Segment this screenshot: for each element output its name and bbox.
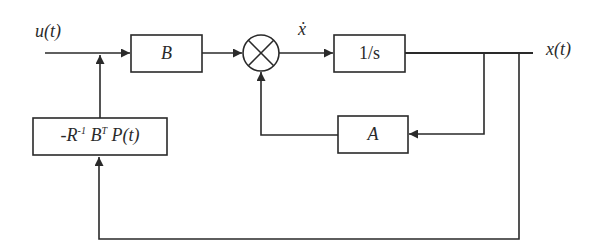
state-feedback-line [409,53,484,134]
block-b-label: B [131,44,202,62]
gain-p: P(t) [107,125,139,145]
gain-prefix: -R [61,125,78,145]
block-integrator-label: 1/s [334,44,405,62]
block-feedback-gain-label: -R-1 BT P(t) [33,126,167,144]
input-label: u(t) [35,22,61,40]
summing-junction-icon [243,35,279,71]
output-label: x(t) [546,40,571,58]
block-a-label: A [338,125,408,143]
gain-b: B [86,125,102,145]
a-to-sum-line [261,72,338,135]
gain-inverse-sup: -1 [78,125,86,136]
xdot-label: ẋ [298,20,306,38]
